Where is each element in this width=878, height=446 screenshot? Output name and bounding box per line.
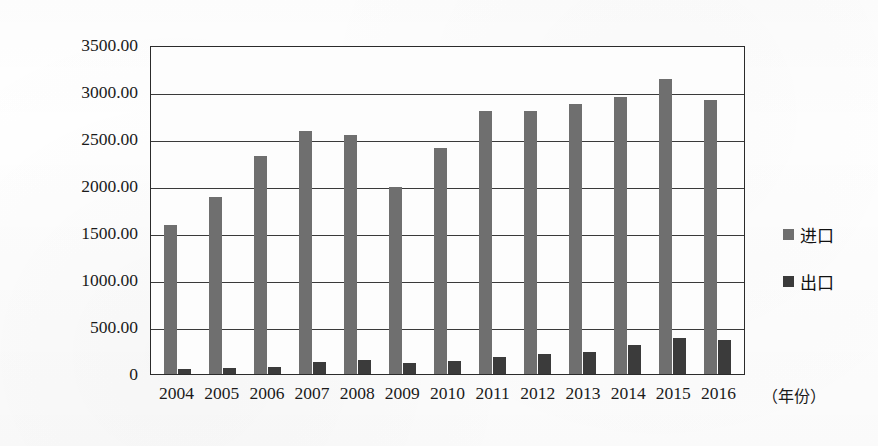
bar-group [425, 47, 470, 374]
bar-chart: 3500.003000.002500.002000.001500.001000.… [0, 0, 878, 446]
bar-group [470, 47, 515, 374]
bar-group [515, 47, 560, 374]
legend-item-import[interactable]: 进口 [783, 222, 834, 247]
bar-group [290, 47, 335, 374]
bar-export-2009[interactable] [403, 363, 416, 374]
x-axis-tick-label: 2015 [651, 383, 696, 404]
bar-groups [151, 47, 744, 374]
x-axis-tick-label: 2007 [289, 383, 334, 404]
bar-export-2006[interactable] [268, 367, 281, 374]
x-axis-tick-label: 2009 [380, 383, 425, 404]
y-axis-tick-label: 3000.00 [0, 82, 138, 103]
legend-item-export[interactable]: 出口 [783, 269, 834, 294]
bar-import-2011[interactable] [479, 111, 492, 374]
bar-group [650, 47, 695, 374]
legend-swatch-export-icon [783, 276, 794, 287]
x-axis-title: （年份） [762, 383, 826, 407]
x-axis-tick-label: 2012 [515, 383, 560, 404]
bar-import-2014[interactable] [614, 97, 627, 374]
bar-group [335, 47, 380, 374]
x-axis-tick-labels: 2004200520062007200820092010201120122013… [150, 383, 745, 404]
x-axis-tick-label: 2011 [470, 383, 515, 404]
bar-group [605, 47, 650, 374]
bar-import-2004[interactable] [164, 225, 177, 374]
bar-import-2012[interactable] [524, 111, 537, 374]
x-axis-tick-label: 2014 [606, 383, 651, 404]
x-axis-tick-label: 2016 [696, 383, 741, 404]
bar-group [245, 47, 290, 374]
y-axis-tick-label: 2000.00 [0, 176, 138, 197]
bar-import-2008[interactable] [344, 135, 357, 374]
bar-export-2010[interactable] [448, 361, 461, 374]
bar-export-2013[interactable] [583, 352, 596, 374]
bar-import-2006[interactable] [254, 156, 267, 374]
y-axis-tick-label: 0 [0, 364, 138, 385]
y-axis-tick-label: 500.00 [0, 317, 138, 338]
bar-export-2005[interactable] [223, 368, 236, 374]
y-axis-tick-label: 1000.00 [0, 270, 138, 291]
bar-export-2014[interactable] [628, 345, 641, 374]
bar-export-2012[interactable] [538, 354, 551, 374]
bar-import-2009[interactable] [389, 187, 402, 374]
x-axis-tick-label: 2013 [560, 383, 605, 404]
bar-group [200, 47, 245, 374]
bar-export-2007[interactable] [313, 362, 326, 374]
x-axis-tick-label: 2005 [199, 383, 244, 404]
x-axis-tick-label: 2010 [425, 383, 470, 404]
bar-group [695, 47, 740, 374]
bar-import-2016[interactable] [704, 100, 717, 374]
bar-group [380, 47, 425, 374]
bar-group [155, 47, 200, 374]
chart-legend: 进口 出口 [783, 222, 834, 316]
bar-import-2013[interactable] [569, 104, 582, 374]
bar-export-2011[interactable] [493, 357, 506, 374]
y-axis-tick-label: 1500.00 [0, 223, 138, 244]
x-axis-tick-label: 2006 [244, 383, 289, 404]
bar-import-2007[interactable] [299, 131, 312, 374]
legend-label-import: 进口 [800, 222, 834, 247]
bar-import-2010[interactable] [434, 148, 447, 374]
x-axis-tick-label: 2008 [335, 383, 380, 404]
bar-export-2008[interactable] [358, 360, 371, 374]
legend-swatch-import-icon [783, 229, 794, 240]
bar-group [560, 47, 605, 374]
bar-export-2015[interactable] [673, 338, 686, 374]
bar-export-2004[interactable] [178, 369, 191, 374]
bar-export-2016[interactable] [718, 340, 731, 374]
legend-label-export: 出口 [800, 269, 834, 294]
bar-import-2005[interactable] [209, 197, 222, 374]
x-axis-tick-label: 2004 [154, 383, 199, 404]
plot-area [150, 46, 745, 375]
bar-import-2015[interactable] [659, 79, 672, 374]
y-axis-tick-label: 2500.00 [0, 129, 138, 150]
y-axis-tick-label: 3500.00 [0, 35, 138, 56]
